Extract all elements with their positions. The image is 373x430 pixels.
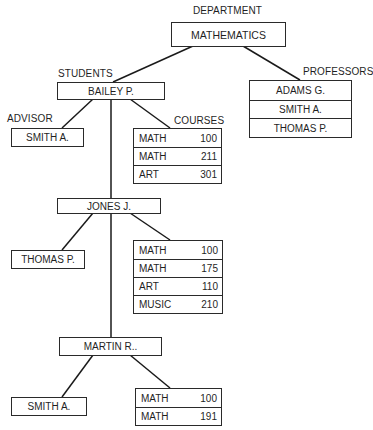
hierarchical-database-diagram: DEPARTMENT MATHEMATICS PROFESSORS ADAMS … xyxy=(0,0,373,430)
line-jones-courses xyxy=(130,213,170,240)
course-subject: ART xyxy=(139,169,159,180)
student-box-bailey: BAILEY P. xyxy=(57,82,165,100)
line-martin-courses xyxy=(130,355,170,388)
department-box: MATHEMATICS xyxy=(171,22,286,47)
professor-row: SMITH A. xyxy=(250,100,351,118)
course-row: MUSIC 210 xyxy=(134,295,222,313)
advisor-box-martin: SMITH A. xyxy=(11,397,87,416)
course-number: 110 xyxy=(202,281,218,292)
line-martin-advisor xyxy=(62,355,93,397)
course-number: 210 xyxy=(201,299,218,310)
professors-list: ADAMS G. SMITH A. THOMAS P. xyxy=(249,80,352,138)
line-jones-advisor xyxy=(62,213,93,250)
line-department-students xyxy=(113,46,193,82)
course-row: MATH 211 xyxy=(134,147,221,165)
course-row: ART 301 xyxy=(134,165,221,183)
department-label: DEPARTMENT xyxy=(193,5,262,16)
course-subject: MATH xyxy=(139,151,167,162)
course-subject: MATH xyxy=(139,245,167,256)
students-label: STUDENTS xyxy=(58,68,113,79)
course-subject: MUSIC xyxy=(139,299,171,310)
advisor-label: ADVISOR xyxy=(7,113,53,124)
course-number: 100 xyxy=(201,245,218,256)
student-box-martin: MARTIN R.. xyxy=(59,337,162,356)
professor-row: THOMAS P. xyxy=(250,118,351,137)
course-number: 175 xyxy=(201,263,218,274)
course-subject: ART xyxy=(139,281,159,292)
course-subject: MATH xyxy=(139,263,167,274)
connector-lines xyxy=(0,0,373,430)
course-row: ART 110 xyxy=(134,277,222,295)
line-bailey-advisor xyxy=(62,99,93,128)
line-bailey-courses xyxy=(130,99,170,128)
line-department-professors xyxy=(243,46,300,80)
course-row: MATH 100 xyxy=(134,129,221,147)
courses-label: COURSES xyxy=(174,115,224,126)
course-number: 191 xyxy=(200,411,217,422)
advisor-box-jones: THOMAS P. xyxy=(11,250,85,269)
courses-table-martin: MATH 100 MATH 191 xyxy=(135,388,222,426)
courses-table-bailey: MATH 100 MATH 211 ART 301 xyxy=(133,128,222,184)
course-number: 211 xyxy=(201,151,217,162)
professors-label: PROFESSORS xyxy=(303,66,373,77)
course-row: MATH 100 xyxy=(134,241,222,259)
professor-row: ADAMS G. xyxy=(250,81,351,100)
course-subject: MATH xyxy=(141,393,169,404)
advisor-box-bailey: SMITH A. xyxy=(11,128,84,147)
course-number: 301 xyxy=(200,169,217,180)
course-row: MATH 175 xyxy=(134,259,222,277)
course-row: MATH 191 xyxy=(136,407,221,425)
course-number: 100 xyxy=(200,393,217,404)
courses-table-jones: MATH 100 MATH 175 ART 110 MUSIC 210 xyxy=(133,240,223,314)
course-row: MATH 100 xyxy=(136,389,221,407)
course-subject: MATH xyxy=(139,133,167,144)
course-number: 100 xyxy=(200,133,217,144)
course-subject: MATH xyxy=(141,411,169,422)
student-box-jones: JONES J. xyxy=(57,198,161,214)
